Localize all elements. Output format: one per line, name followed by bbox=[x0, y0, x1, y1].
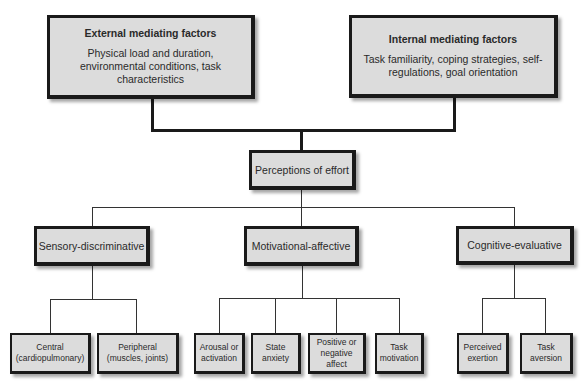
external-factors-description: Physical load and duration, environmenta… bbox=[55, 47, 247, 86]
connector-perceptions-down bbox=[301, 189, 302, 227]
connector-state-up bbox=[275, 298, 276, 334]
positive-negative-line2: negative affect bbox=[310, 348, 363, 370]
connector-sensory-down bbox=[92, 265, 93, 299]
connector-motivational-horizontal bbox=[219, 298, 400, 299]
task-aversion-line1: Task bbox=[537, 342, 554, 353]
connector-aversion-up bbox=[545, 298, 546, 334]
task-motivation-box: Task motivation bbox=[375, 333, 424, 374]
task-motivation-line2: motivation bbox=[380, 353, 419, 364]
connector-internal-down bbox=[453, 97, 456, 131]
external-factors-title: External mediating factors bbox=[85, 27, 217, 39]
motivational-affective-box: Motivational-affective bbox=[244, 226, 359, 266]
connector-central-up bbox=[50, 299, 51, 334]
sensory-discriminative-label: Sensory-discriminative bbox=[39, 240, 145, 252]
task-aversion-box: Task aversion bbox=[520, 333, 573, 374]
connector-sensory-horizontal bbox=[50, 299, 137, 300]
connector-top-horizontal bbox=[151, 129, 456, 132]
connector-motivational-down bbox=[302, 265, 303, 299]
connector-sensory-up bbox=[92, 207, 93, 227]
central-line2: (cardiopulmonary) bbox=[16, 353, 85, 364]
connector-peripheral-up bbox=[136, 299, 137, 334]
sensory-discriminative-box: Sensory-discriminative bbox=[34, 226, 150, 266]
positive-negative-affect-box: Positive or negative affect bbox=[308, 333, 366, 374]
task-motivation-line1: Task bbox=[390, 342, 407, 353]
perceived-exertion-box: Perceived exertion bbox=[457, 333, 509, 374]
internal-factors-description: Task familiarity, coping strategies, sel… bbox=[363, 53, 543, 79]
connector-to-perceptions bbox=[300, 129, 303, 151]
connector-cognitive-down bbox=[514, 264, 515, 299]
perceived-exertion-line1: Perceived bbox=[464, 342, 502, 353]
arousal-box: Arousal or activation bbox=[194, 333, 245, 374]
arousal-line1: Arousal or bbox=[200, 342, 239, 353]
central-line1: Central bbox=[36, 342, 63, 353]
connector-positive-up bbox=[336, 298, 337, 334]
connector-cognitive-up bbox=[514, 207, 515, 227]
state-anxiety-line1: State bbox=[266, 342, 286, 353]
connector-external-down bbox=[151, 98, 154, 131]
central-box: Central (cardiopulmonary) bbox=[10, 333, 91, 374]
connector-taskmot-up bbox=[399, 298, 400, 334]
motivational-affective-label: Motivational-affective bbox=[252, 240, 350, 252]
positive-negative-line1: Positive or bbox=[317, 337, 357, 348]
perceptions-of-effort-label: Perceptions of effort bbox=[255, 164, 349, 176]
peripheral-box: Peripheral (muscles, joints) bbox=[97, 333, 179, 374]
internal-factors-title: Internal mediating factors bbox=[389, 33, 517, 45]
connector-arousal-up bbox=[219, 298, 220, 334]
connector-cognitive-horizontal bbox=[482, 298, 546, 299]
cognitive-evaluative-label: Cognitive-evaluative bbox=[467, 239, 562, 251]
arousal-line2: activation bbox=[201, 353, 237, 364]
connector-dimensions-horizontal bbox=[92, 207, 515, 208]
peripheral-line1: Peripheral bbox=[118, 342, 157, 353]
cognitive-evaluative-box: Cognitive-evaluative bbox=[456, 226, 574, 265]
external-factors-box: External mediating factors Physical load… bbox=[47, 15, 255, 99]
connector-perceived-up bbox=[482, 298, 483, 334]
state-anxiety-box: State anxiety bbox=[251, 333, 301, 374]
task-aversion-line2: aversion bbox=[530, 353, 562, 364]
perceived-exertion-line2: exertion bbox=[467, 353, 497, 364]
perceptions-of-effort-box: Perceptions of effort bbox=[249, 150, 356, 190]
peripheral-line2: (muscles, joints) bbox=[107, 353, 168, 364]
state-anxiety-line2: anxiety bbox=[262, 353, 289, 364]
internal-factors-box: Internal mediating factors Task familiar… bbox=[349, 15, 558, 98]
